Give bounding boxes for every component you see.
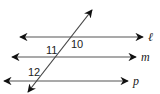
line-label-m: m — [141, 50, 150, 64]
angle-label-12: 12 — [28, 66, 40, 78]
parallel-lines-diagram: ℓ m p 10 11 12 — [0, 0, 160, 94]
transversal-line — [28, 10, 92, 92]
line-label-l: ℓ — [148, 30, 153, 44]
line-label-p: p — [132, 74, 139, 88]
angle-label-11: 11 — [46, 44, 57, 56]
angle-label-10: 10 — [71, 38, 83, 50]
